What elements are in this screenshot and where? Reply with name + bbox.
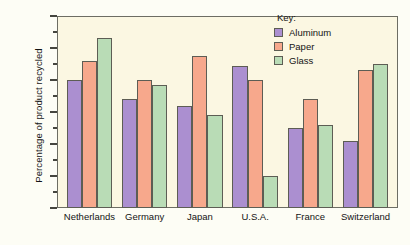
y-tick-major [50,175,57,176]
bar [288,128,303,208]
bar [192,56,207,208]
legend-swatch-icon [274,42,283,51]
bar [373,64,388,208]
y-tick-major [50,111,57,112]
legend-rows: AluminumPaperGlass [274,27,366,66]
legend-label: Paper [289,41,314,52]
legend-swatch-icon [274,56,283,65]
legend: Key: AluminumPaperGlass [274,12,366,69]
bar [248,80,263,208]
bar [97,38,112,208]
bar [177,106,192,208]
legend-title: Key: [277,12,366,23]
legend-label: Aluminum [289,27,331,38]
bar [303,99,318,208]
recycling-bar-chart: Percentage of product recycled 010203040… [0,0,410,245]
x-axis-label: Switzerland [316,211,410,222]
bar [318,125,333,208]
bar [343,141,358,208]
bar [207,115,222,208]
legend-item: Aluminum [274,27,366,38]
x-axis-category-labels: NetherlandsGermanyJapanU.S.A.FranceSwitz… [57,211,398,235]
y-tick-major [50,79,57,80]
y-tick-major [50,207,57,208]
y-tick-major [50,47,57,48]
legend-swatch-icon [274,28,283,37]
bar [263,176,278,208]
bar [358,70,373,208]
y-tick-major [50,143,57,144]
bar [152,85,167,208]
y-tick-major [50,15,57,16]
legend-item: Glass [274,55,366,66]
bar [137,80,152,208]
y-axis: 0102030405060 [0,0,57,245]
legend-item: Paper [274,41,366,52]
bar [122,99,137,208]
bar [67,80,82,208]
bar [82,61,97,208]
legend-label: Glass [289,55,313,66]
bar [232,66,247,208]
